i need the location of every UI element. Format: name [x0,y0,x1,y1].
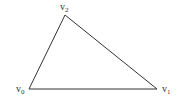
vertex-label-v0: v0 [16,83,25,96]
vertex-label-v2: v2 [60,1,69,14]
triangle-diagram: v0 v1 v2 [0,0,178,102]
triangle [29,15,157,89]
vertex-label-v1: v1 [162,83,171,96]
